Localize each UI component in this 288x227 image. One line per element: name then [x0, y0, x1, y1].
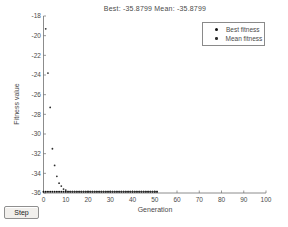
ga-fitness-plot-window: Best: -35.8799 Mean: -35.8799 0102030405…	[0, 0, 288, 227]
mean-fitness-point	[69, 191, 71, 193]
legend-label-mean: Mean fitness	[226, 35, 263, 42]
best-fitness-point	[45, 191, 47, 193]
x-tick-label: 0	[42, 196, 46, 203]
mean-fitness-point	[78, 191, 80, 193]
mean-fitness-point	[63, 188, 65, 190]
mean-fitness-point	[152, 191, 154, 193]
x-tick-label: 30	[107, 196, 115, 203]
best-fitness-point	[49, 191, 51, 193]
mean-fitness-point	[83, 191, 85, 193]
mean-fitness-point	[87, 191, 89, 193]
mean-fitness-point	[147, 191, 149, 193]
mean-fitness-point	[116, 191, 118, 193]
legend-label-best: Best fitness	[226, 26, 260, 33]
x-tick-label: 50	[151, 196, 159, 203]
y-tick-label: -20	[32, 32, 42, 39]
mean-fitness-point	[149, 191, 151, 193]
mean-fitness-point	[54, 165, 56, 167]
y-tick-label: -22	[32, 52, 42, 59]
mean-fitness-point	[85, 191, 87, 193]
mean-fitness-point	[129, 191, 131, 193]
y-tick-label: -24	[32, 71, 42, 78]
mean-fitness-point	[49, 107, 51, 109]
mean-fitness-point	[145, 191, 147, 193]
mean-fitness-point	[96, 191, 98, 193]
mean-fitness-point	[120, 191, 122, 193]
mean-fitness-point	[67, 191, 69, 193]
mean-fitness-point	[45, 28, 47, 30]
mean-fitness-point	[136, 191, 138, 193]
legend-item-mean-fitness: Mean fitness	[203, 34, 264, 43]
mean-fitness-point	[58, 182, 60, 184]
mean-fitness-point	[103, 191, 105, 193]
best-fitness-point	[56, 191, 58, 193]
mean-fitness-point	[118, 191, 120, 193]
y-tick-label: -26	[32, 91, 42, 98]
best-fitness-point	[54, 191, 56, 193]
mean-fitness-point	[112, 191, 114, 193]
best-fitness-point	[47, 191, 49, 193]
best-fitness-point	[63, 191, 65, 193]
x-tick-label: 20	[84, 196, 92, 203]
y-tick-label: -32	[32, 150, 42, 157]
y-tick-label: -34	[32, 170, 42, 177]
mean-fitness-point	[125, 191, 127, 193]
mean-fitness-point	[141, 191, 143, 193]
best-fitness-marker-icon	[215, 28, 218, 31]
mean-fitness-point	[56, 175, 58, 177]
legend-item-best-fitness: Best fitness	[203, 25, 264, 34]
mean-fitness-point	[65, 189, 67, 191]
x-axis-label: Generation	[138, 206, 173, 213]
mean-fitness-point	[114, 191, 116, 193]
x-tick-label: 60	[173, 196, 181, 203]
mean-fitness-point	[89, 191, 91, 193]
mean-fitness-point	[138, 191, 140, 193]
mean-fitness-point	[80, 191, 82, 193]
mean-fitness-point	[72, 191, 74, 193]
mean-fitness-point	[52, 148, 54, 150]
mean-fitness-point	[154, 191, 156, 193]
legend: Best fitness Mean fitness	[202, 22, 265, 46]
mean-fitness-point	[92, 191, 94, 193]
x-tick-label: 70	[196, 196, 204, 203]
x-tick-label: 80	[218, 196, 226, 203]
mean-fitness-point	[123, 191, 125, 193]
y-tick-label: -30	[32, 130, 42, 137]
mean-fitness-point	[60, 185, 62, 187]
mean-fitness-point	[107, 191, 109, 193]
mean-fitness-point	[47, 72, 49, 74]
y-tick-label: -28	[32, 111, 42, 118]
mean-fitness-point	[109, 191, 111, 193]
mean-fitness-point	[156, 191, 158, 193]
mean-fitness-point	[76, 191, 78, 193]
step-button[interactable]: Step	[4, 206, 39, 219]
mean-fitness-point	[105, 191, 107, 193]
best-fitness-point	[51, 191, 53, 193]
best-fitness-point	[43, 191, 45, 193]
mean-fitness-point	[100, 191, 102, 193]
best-fitness-point	[60, 191, 62, 193]
x-tick-label: 100	[261, 196, 272, 203]
x-tick-label: 40	[129, 196, 137, 203]
best-fitness-point	[58, 191, 60, 193]
mean-fitness-point	[94, 191, 96, 193]
mean-fitness-point	[132, 191, 134, 193]
mean-fitness-point	[134, 191, 136, 193]
y-tick-label: -36	[32, 189, 42, 196]
mean-fitness-point	[98, 191, 100, 193]
mean-fitness-marker-icon	[215, 37, 218, 40]
mean-fitness-point	[143, 191, 145, 193]
x-tick-label: 90	[240, 196, 248, 203]
x-tick-label: 10	[62, 196, 70, 203]
y-axis-label: Fitness value	[13, 83, 20, 124]
mean-fitness-point	[74, 191, 76, 193]
best-fitness-point	[65, 191, 67, 193]
mean-fitness-point	[127, 191, 129, 193]
y-tick-label: -18	[32, 12, 42, 19]
